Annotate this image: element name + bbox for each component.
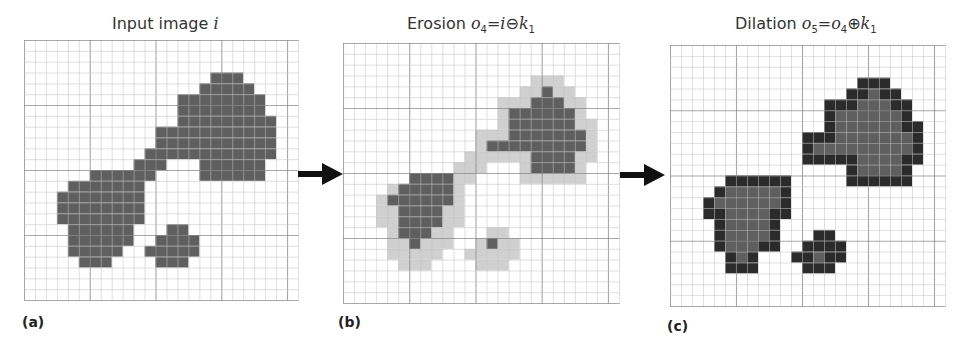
fill-cells xyxy=(134,159,167,170)
fill-cells xyxy=(90,170,156,181)
formula-var-o: o xyxy=(471,14,481,33)
fill-cells xyxy=(725,208,769,219)
fill-cells xyxy=(531,162,575,173)
border-cells xyxy=(857,78,890,89)
fill-cells xyxy=(714,197,780,208)
fill-cells xyxy=(68,235,134,246)
border-cells xyxy=(813,230,835,241)
title-text: Input image xyxy=(112,14,208,33)
formula-var-k: k xyxy=(519,14,529,33)
panel-c-label: (c) xyxy=(667,318,688,334)
fill-cells xyxy=(487,141,586,152)
light-cells xyxy=(475,260,508,271)
light-cells xyxy=(453,162,486,173)
title-text: Dilation xyxy=(735,14,797,33)
fill-cells xyxy=(156,127,277,138)
fill-cells xyxy=(487,238,498,249)
fill-cells xyxy=(409,238,420,249)
formula-var-o: o xyxy=(802,14,812,33)
fill-cells xyxy=(68,224,134,235)
fill-cells xyxy=(68,246,123,257)
light-cells xyxy=(487,227,509,238)
fill-cells xyxy=(210,73,243,84)
fill-cells xyxy=(156,257,189,268)
fill-cells xyxy=(868,89,879,100)
fill-cells xyxy=(813,143,912,154)
fill-cells xyxy=(199,159,265,170)
light-cells xyxy=(387,249,442,260)
formula-equals: = xyxy=(487,14,500,33)
fill-cells xyxy=(736,252,747,263)
fill-cells xyxy=(57,213,145,224)
input-image-grid xyxy=(24,40,299,301)
border-cells xyxy=(846,176,912,187)
border-cells xyxy=(802,263,835,274)
panel-a-title: Input image i xyxy=(112,14,219,33)
dilation-operator-icon: ⊕ xyxy=(847,14,860,33)
fill-cells xyxy=(145,246,200,257)
fill-cells xyxy=(57,192,145,203)
fill-cells xyxy=(409,173,453,184)
fill-cells xyxy=(725,241,758,252)
fill-cells xyxy=(166,224,188,235)
panel-a-label: (a) xyxy=(22,314,44,330)
fill-cells xyxy=(398,216,442,227)
fill-cells xyxy=(725,186,780,197)
border-cells xyxy=(725,263,758,274)
fill-cells xyxy=(398,206,442,217)
formula-subscript: 1 xyxy=(529,24,535,35)
erosion-grid xyxy=(343,43,620,304)
fill-cells xyxy=(79,257,112,268)
fill-cells xyxy=(156,235,200,246)
dilation-grid xyxy=(670,45,946,307)
panel-b-label: (b) xyxy=(338,314,361,330)
fill-cells xyxy=(531,151,575,162)
fill-cells xyxy=(387,195,453,206)
light-cells xyxy=(398,260,431,271)
fill-cells xyxy=(725,219,769,230)
fill-cells xyxy=(199,170,265,181)
border-cells xyxy=(725,176,791,187)
formula-var-o: o xyxy=(831,14,841,33)
fill-cells xyxy=(857,99,890,110)
fill-cells xyxy=(857,154,901,165)
fill-cells xyxy=(813,252,824,263)
title-variable: i xyxy=(213,14,218,33)
light-cells xyxy=(464,249,519,260)
fill-cells xyxy=(725,230,769,241)
arrow-right-icon xyxy=(298,163,344,189)
fill-cells xyxy=(177,116,276,127)
border-cells xyxy=(802,241,846,252)
fill-cells xyxy=(542,86,553,97)
panel-b-title: Erosion o4=i⊖k1 xyxy=(407,14,535,35)
formula-var-k: k xyxy=(861,14,871,33)
light-cells xyxy=(520,173,586,184)
fill-cells xyxy=(531,97,564,108)
panel-c-title: Dilation o5=o4⊕k1 xyxy=(735,14,877,35)
fill-cells xyxy=(57,203,145,214)
fill-cells xyxy=(398,227,431,238)
light-cells xyxy=(531,76,564,87)
fill-cells xyxy=(857,165,901,176)
formula-subscript: 1 xyxy=(870,24,876,35)
fill-cells xyxy=(199,83,254,94)
fill-cells xyxy=(145,148,277,159)
title-text: Erosion xyxy=(407,14,466,33)
fill-cells xyxy=(398,184,453,195)
fill-cells xyxy=(156,138,277,149)
formula-equals: = xyxy=(818,14,831,33)
arrow-right-icon xyxy=(620,164,666,190)
erosion-operator-icon: ⊖ xyxy=(505,14,518,33)
